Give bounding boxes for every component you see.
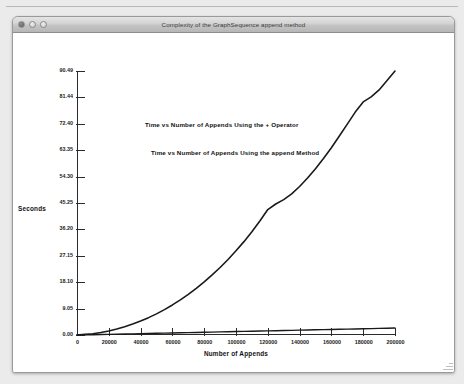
x-tick-label: 80000 [197, 339, 212, 345]
figure-canvas: Seconds 0.009.0518.1027.1536.2045.2554.3… [13, 33, 454, 372]
x-tick-label: 60000 [165, 339, 180, 345]
zoom-button-icon[interactable] [40, 21, 47, 28]
y-tick-label: 54.30 [60, 173, 74, 179]
x-tick-label: 140000 [291, 339, 309, 345]
window-title: Complexity of the GraphSequence append m… [13, 17, 454, 32]
y-tick-label: 45.25 [60, 199, 74, 205]
application-window: Complexity of the GraphSequence append m… [12, 16, 455, 373]
y-tick-label: 18.10 [60, 278, 74, 284]
x-tick-label: 40000 [134, 339, 149, 345]
minimize-button-icon[interactable] [29, 21, 36, 28]
series-line-plus-operator [77, 71, 395, 335]
close-button-icon[interactable] [18, 21, 25, 28]
y-tick-label: 81.44 [60, 93, 74, 99]
x-tick-label: 0 [76, 339, 79, 345]
resize-grip[interactable] [442, 360, 453, 371]
x-tick-label: 180000 [355, 339, 373, 345]
y-tick-label: 36.20 [60, 225, 74, 231]
x-tick-label: 200000 [387, 339, 405, 345]
annotation-plus-operator: Time vs Number of Appends Using the + Op… [145, 121, 299, 128]
x-tick-label: 120000 [259, 339, 277, 345]
annotation-append-method: Time vs Number of Appends Using the appe… [151, 149, 319, 156]
y-tick-label: 90.49 [60, 67, 74, 73]
y-tick-label: 63.35 [60, 146, 74, 152]
x-tick: 200000 [395, 328, 396, 336]
window-controls [13, 21, 47, 28]
x-axis-title: Number of Appends [77, 350, 395, 357]
y-tick-label: 9.05 [63, 305, 74, 311]
chart-series-layer [77, 71, 395, 335]
desktop-divider [6, 6, 458, 7]
y-tick-label: 27.15 [60, 252, 74, 258]
x-tick-label: 20000 [102, 339, 117, 345]
plot-area: 0.009.0518.1027.1536.2045.2554.3063.3572… [77, 71, 395, 335]
y-tick-label: 0.00 [63, 331, 74, 337]
x-tick-label: 100000 [228, 339, 246, 345]
y-axis-title: Seconds [18, 205, 46, 212]
x-tick-label: 160000 [323, 339, 341, 345]
series-line-append-method [77, 328, 395, 335]
window-titlebar[interactable]: Complexity of the GraphSequence append m… [13, 17, 454, 33]
y-tick-label: 72.40 [60, 120, 74, 126]
